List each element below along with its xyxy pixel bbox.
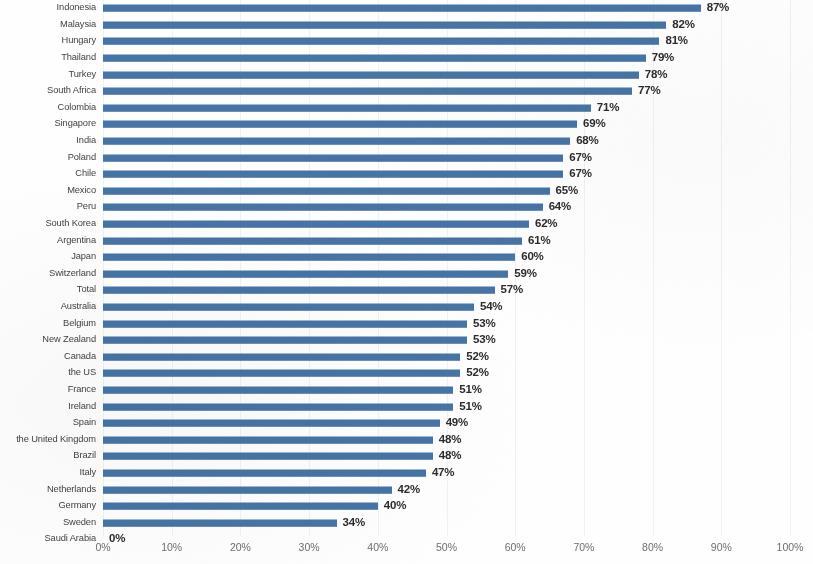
value-label: 54% bbox=[480, 301, 502, 313]
category-label: Sweden bbox=[0, 518, 96, 527]
bar-track bbox=[103, 71, 790, 78]
bar-track bbox=[103, 519, 790, 526]
category-label: Total bbox=[0, 286, 96, 295]
chart-row: India68% bbox=[0, 133, 813, 150]
bar-track bbox=[103, 486, 790, 493]
chart-row: Japan60% bbox=[0, 249, 813, 266]
category-label: Indonesia bbox=[0, 4, 96, 13]
category-label: Australia bbox=[0, 302, 96, 311]
category-label: Mexico bbox=[0, 186, 96, 195]
bar bbox=[103, 254, 515, 261]
value-label: 68% bbox=[576, 135, 598, 147]
category-label: Turkey bbox=[0, 70, 96, 79]
category-label: New Zealand bbox=[0, 336, 96, 345]
bar bbox=[103, 486, 392, 493]
value-label: 48% bbox=[439, 434, 461, 446]
chart-row: Sweden34% bbox=[0, 514, 813, 531]
chart-row: Singapore69% bbox=[0, 116, 813, 133]
chart-row: Total57% bbox=[0, 282, 813, 299]
chart-row: Chile67% bbox=[0, 166, 813, 183]
value-label: 47% bbox=[432, 467, 454, 479]
chart-row: Malaysia82% bbox=[0, 17, 813, 34]
bar bbox=[103, 154, 563, 161]
bar-track bbox=[103, 104, 790, 111]
value-label: 62% bbox=[535, 218, 557, 230]
x-tick-label: 20% bbox=[230, 542, 251, 553]
value-label: 59% bbox=[514, 268, 536, 280]
bar-track bbox=[103, 353, 790, 360]
value-label: 60% bbox=[521, 251, 543, 263]
bar bbox=[103, 469, 426, 476]
bar bbox=[103, 403, 453, 410]
bar bbox=[103, 221, 529, 228]
bar bbox=[103, 453, 433, 460]
value-label: 34% bbox=[343, 517, 365, 529]
bar-chart: Indonesia87%Malaysia82%Hungary81%Thailan… bbox=[0, 0, 813, 564]
bar bbox=[103, 5, 701, 12]
category-label: Malaysia bbox=[0, 20, 96, 29]
category-label: India bbox=[0, 136, 96, 145]
chart-row: Hungary81% bbox=[0, 33, 813, 50]
value-label: 79% bbox=[652, 52, 674, 64]
category-label: the US bbox=[0, 369, 96, 378]
x-tick-label: 90% bbox=[711, 542, 732, 553]
bar-track bbox=[103, 287, 790, 294]
x-tick-label: 50% bbox=[436, 542, 457, 553]
bar-track bbox=[103, 138, 790, 145]
bar bbox=[103, 337, 467, 344]
category-label: Canada bbox=[0, 352, 96, 361]
bar-track bbox=[103, 204, 790, 211]
bar-track bbox=[103, 121, 790, 128]
chart-row: Italy47% bbox=[0, 465, 813, 482]
value-label: 53% bbox=[473, 318, 495, 330]
bar-track bbox=[103, 370, 790, 377]
category-label: Thailand bbox=[0, 53, 96, 62]
chart-row: Brazil48% bbox=[0, 448, 813, 465]
value-label: 65% bbox=[556, 185, 578, 197]
bar bbox=[103, 88, 632, 95]
category-label: Hungary bbox=[0, 37, 96, 46]
value-label: 48% bbox=[439, 451, 461, 463]
chart-row: Poland67% bbox=[0, 149, 813, 166]
bar-track bbox=[103, 237, 790, 244]
value-label: 49% bbox=[446, 417, 468, 429]
chart-row: the United Kingdom48% bbox=[0, 431, 813, 448]
chart-row: Peru64% bbox=[0, 199, 813, 216]
bar bbox=[103, 503, 378, 510]
bar bbox=[103, 121, 577, 128]
value-label: 69% bbox=[583, 119, 605, 131]
bar-track bbox=[103, 270, 790, 277]
bar bbox=[103, 270, 508, 277]
chart-row: South Africa77% bbox=[0, 83, 813, 100]
x-tick-label: 40% bbox=[367, 542, 388, 553]
chart-row: Australia54% bbox=[0, 299, 813, 316]
value-label: 67% bbox=[569, 168, 591, 180]
category-label: France bbox=[0, 385, 96, 394]
bar bbox=[103, 237, 522, 244]
chart-row: France51% bbox=[0, 382, 813, 399]
bar bbox=[103, 204, 543, 211]
x-tick-label: 70% bbox=[573, 542, 594, 553]
value-label: 52% bbox=[466, 351, 488, 363]
category-label: Germany bbox=[0, 501, 96, 510]
bar-track bbox=[103, 254, 790, 261]
category-label: Japan bbox=[0, 253, 96, 262]
category-label: Netherlands bbox=[0, 485, 96, 494]
x-tick-label: 10% bbox=[161, 542, 182, 553]
chart-row: Netherlands42% bbox=[0, 481, 813, 498]
bar-track bbox=[103, 5, 790, 12]
category-label: Poland bbox=[0, 153, 96, 162]
category-label: Colombia bbox=[0, 103, 96, 112]
x-tick-label: 0% bbox=[95, 542, 110, 553]
value-label: 82% bbox=[672, 19, 694, 31]
bar bbox=[103, 138, 570, 145]
chart-row: Colombia71% bbox=[0, 100, 813, 117]
chart-row: Switzerland59% bbox=[0, 266, 813, 283]
chart-row: Argentina61% bbox=[0, 232, 813, 249]
value-label: 71% bbox=[597, 102, 619, 114]
chart-row: Canada52% bbox=[0, 348, 813, 365]
value-label: 42% bbox=[398, 484, 420, 496]
value-label: 77% bbox=[638, 86, 660, 98]
bar-track bbox=[103, 171, 790, 178]
category-label: Peru bbox=[0, 203, 96, 212]
